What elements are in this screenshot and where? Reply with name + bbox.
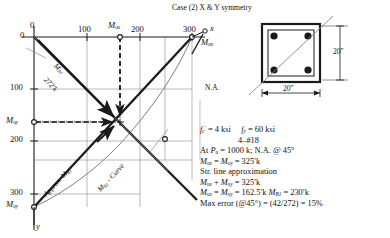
marker-mux (118, 35, 123, 40)
note-error-line: Max error (@45°) = (42/272) = 15% (200, 199, 390, 208)
mo-value: = 325′k (233, 157, 261, 166)
section-outline (262, 24, 320, 82)
sum-plus: + (212, 178, 221, 187)
split-equals: = (212, 188, 221, 197)
mux-note-symbol: M (200, 178, 207, 187)
origin-label-top: 0 (30, 21, 34, 30)
x-axis-label: x (210, 24, 214, 33)
y-tick-300: 300 (10, 188, 23, 197)
pu-value: = 1000 k; N.A. @ 45° (218, 146, 294, 155)
note-approx-heading: Str. line approximation (200, 167, 390, 176)
at-prefix: At (200, 146, 210, 155)
note-sum-line: Mux + Muy = 325′k (200, 178, 390, 187)
origin-label-left: 0 (20, 31, 24, 40)
mux-subscript: ux (115, 24, 120, 30)
muy-subscript: uy (13, 119, 18, 125)
section-width-label: 20″ (283, 85, 294, 93)
fy-value: = 60 ksi (246, 125, 275, 134)
y-axis-label: y (36, 222, 40, 231)
moy-label: Moy (6, 200, 18, 210)
x-tick-300: 300 (183, 25, 196, 34)
neutral-axis-label: N.A. (205, 84, 219, 91)
marker-muy (32, 120, 37, 125)
split-value: = 162.5′k (233, 188, 267, 197)
fc-value: = 4 ksi (206, 125, 231, 134)
note-rebar-line: 4–#18 (200, 136, 390, 145)
column-cross-section (249, 16, 348, 97)
note-material-line: fc′ = 4 ksi fy = 60 ksi (200, 125, 390, 134)
y-tick-100: 100 (10, 83, 23, 92)
note-load-line: At Pu = 1000 k; N.A. @ 45° (200, 146, 390, 155)
mb1-note-symbol: M (269, 188, 276, 197)
muy-note-symbol: M (221, 178, 228, 187)
origin-angle-tick (26, 48, 46, 58)
moy-subscript: oy (13, 203, 18, 209)
mox-note-symbol: M (200, 157, 207, 166)
x-tick-100: 100 (78, 25, 91, 34)
muy-split-symbol: M (221, 188, 228, 197)
notes-block: fc′ = 4 ksi fy = 60 ksi 4–#18 At Pu = 10… (200, 125, 390, 209)
mo-equals: = (212, 157, 221, 166)
x-tick-200: 200 (131, 25, 144, 34)
section-height-label: 20″ (333, 48, 344, 56)
y-tick-200: 200 (10, 135, 23, 144)
moy-note-symbol: M (221, 157, 228, 166)
note-mo-line: Mox = Moy = 325′k (200, 157, 390, 166)
x-axis-tip-marker (203, 29, 207, 33)
mb1-note-value: = 230′k (281, 188, 309, 197)
sum-value: = 325′k (233, 178, 261, 187)
mox-subscript: ox (208, 41, 213, 47)
note-split-line: Mux = Muy = 162.5′k MB1 = 230′k (200, 188, 390, 197)
mux-split-symbol: M (200, 188, 207, 197)
mox-label: Mox (201, 38, 213, 48)
muy-axis-label: Muy (6, 116, 18, 126)
marker-curve-45 (163, 137, 168, 142)
mux-axis-label: Mux (108, 21, 120, 31)
